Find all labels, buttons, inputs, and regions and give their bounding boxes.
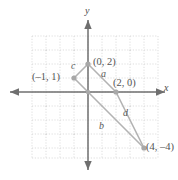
point-label-neg1-1: (–1, 1) (32, 72, 60, 83)
point-2-0 (113, 89, 118, 94)
point-label-4-neg4: (4, –4) (146, 142, 174, 153)
point-origin (86, 90, 90, 94)
y-axis-arrow-up (84, 20, 91, 29)
coordinate-plane-figure: (0, 2) (–1, 1) (2, 0) (4, –4) a b c d x … (0, 0, 178, 180)
segment-label-c: c (71, 61, 75, 71)
point-0-2 (85, 61, 90, 66)
axis-label-y: y (85, 6, 89, 16)
plot-canvas (0, 0, 178, 180)
segment-label-d: d (123, 108, 128, 118)
x-axis-arrow-left (10, 88, 19, 96)
segment-c (74, 64, 88, 78)
y-axis-arrow-down (84, 161, 91, 170)
point-label-0-2: (0, 2) (93, 57, 116, 68)
segment-e (74, 78, 88, 92)
segment-label-b: b (99, 121, 104, 131)
point-label-2-0: (2, 0) (113, 78, 136, 89)
point-neg1-1 (71, 75, 76, 80)
axis-label-x: x (164, 83, 168, 93)
segment-label-a: a (101, 69, 106, 79)
